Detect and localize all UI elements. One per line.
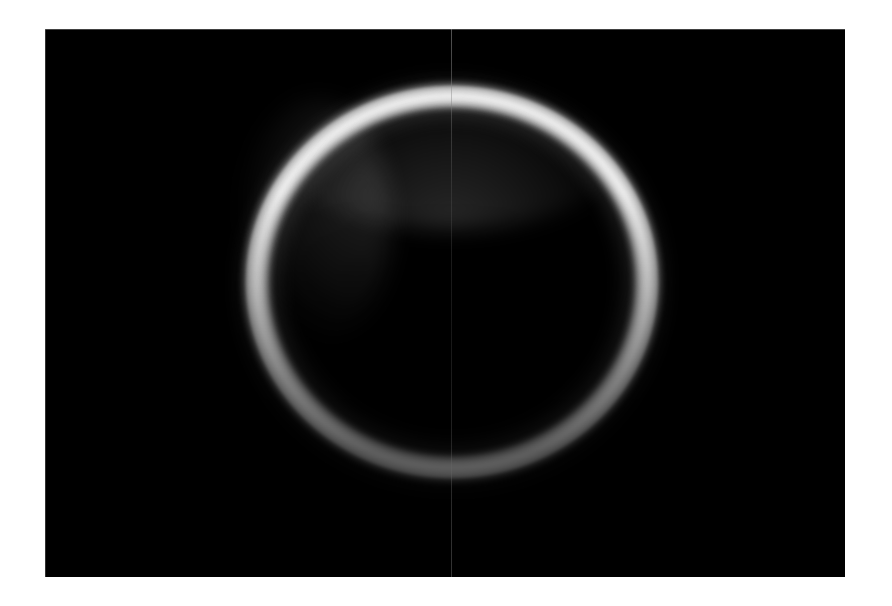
ring-angular-shading [217,58,688,507]
page-canvas [0,0,892,606]
ring-upper-left-glow [241,99,391,339]
ring-bright-inner-edge [245,85,659,480]
astronomical-image-plate [45,29,845,577]
ring-outer-halo [232,72,673,492]
ring-render-stage [45,29,845,577]
ring-annulus-body [239,79,665,485]
ring-top-glow [275,69,625,229]
